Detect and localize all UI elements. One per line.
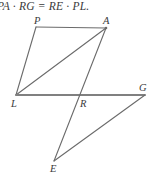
vertex-label-e: E [50,164,56,175]
segment-PL [16,27,36,95]
segment-PA [36,27,106,28]
segments-group [16,27,145,161]
vertex-label-r: R [80,99,86,110]
diagram-canvas [0,0,153,175]
vertex-label-a: A [103,16,109,27]
vertex-label-g: G [139,83,147,94]
vertex-label-p: P [34,16,40,27]
vertex-dots-group [105,27,108,30]
vertex-dot-a [105,27,108,30]
vertex-label-l: L [11,99,17,110]
segment-EG [54,95,145,161]
geometry-figure: PA · RG = RE · PL. P A L R G E [0,0,153,175]
